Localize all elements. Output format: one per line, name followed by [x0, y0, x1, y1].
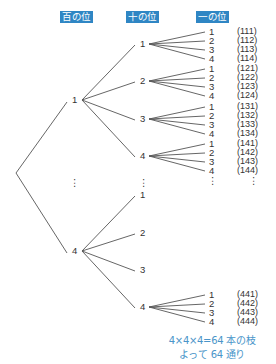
hundreds-ellipsis: ⋮ [70, 177, 80, 188]
tree-diagram: 14⋮11(111)2(112)3(113)4(114)21(121)2(122… [0, 0, 276, 364]
tens-branch-line [82, 251, 135, 271]
tens-node-13: 3 [140, 113, 145, 124]
tens-branch-line [82, 45, 135, 100]
caption-line-1: 4×4×4=64 本の枝 [150, 332, 274, 347]
result-code: (124) [237, 90, 258, 100]
ones-node-444: 4 [209, 316, 214, 327]
ones-branch-line [149, 156, 205, 162]
ones-branch-line [149, 156, 205, 171]
ones-branch-line [149, 119, 205, 125]
tens-branch-line [82, 100, 135, 157]
ones-branch-line [149, 81, 205, 96]
tens-node-42: 2 [140, 227, 145, 238]
result-code: (114) [237, 53, 257, 63]
tens-branch-line [82, 82, 135, 100]
ones-branch-line [149, 307, 205, 313]
tens-branch-line [82, 251, 135, 308]
tens-branch-line [82, 100, 135, 120]
result-code: (444) [237, 316, 258, 326]
tens-node-41: 1 [140, 189, 145, 200]
ones-ellipsis: ⋮ [208, 175, 218, 186]
ones-branch-line [149, 44, 205, 59]
ones-branch-line [149, 307, 205, 322]
tens-node-11: 1 [140, 38, 145, 49]
ones-node-124: 4 [209, 90, 214, 101]
tens-node-12: 2 [140, 75, 145, 86]
caption-line-2: よって 64 通り [150, 346, 274, 361]
result-code: (134) [237, 128, 258, 138]
ones-branch-line [149, 44, 205, 50]
root-branch-line [16, 102, 67, 173]
tens-node-44: 4 [140, 301, 145, 312]
ones-branch-line [149, 81, 205, 87]
code-ellipsis: ⋮ [249, 175, 259, 186]
ones-branch-line [149, 119, 205, 134]
root-branch-line [16, 173, 67, 253]
hundreds-node-1: 1 [72, 94, 77, 105]
hundreds-node-4: 4 [72, 245, 77, 256]
tens-node-43: 3 [140, 264, 145, 275]
tens-ellipsis: ⋮ [139, 177, 149, 188]
tens-node-14: 4 [140, 150, 145, 161]
